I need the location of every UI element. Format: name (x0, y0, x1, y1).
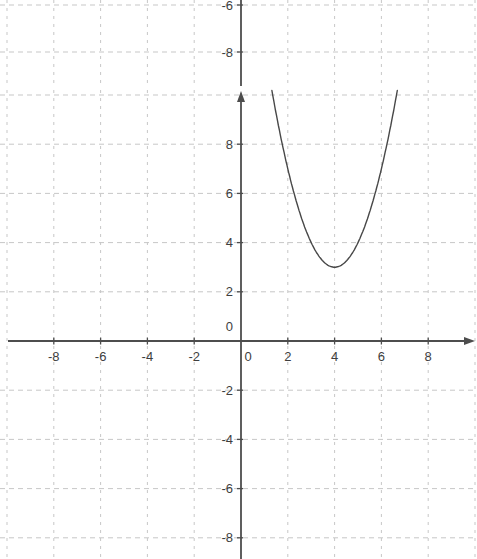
y-tick-label: -6 (221, 481, 233, 496)
graph-canvas: -6-8-8-6-4-20246886420-2-4-6-8 (0, 0, 477, 559)
x-axis-arrowhead (464, 337, 475, 345)
y-tick-label: 6 (226, 186, 233, 201)
y-tick-label: 8 (226, 137, 233, 152)
y-tick-label: -4 (221, 432, 233, 447)
x-tick-label: -8 (48, 349, 60, 364)
y-tick-label: 4 (226, 235, 233, 250)
strip-y-tick-label: -6 (221, 0, 233, 13)
x-tick-label: 0 (244, 349, 251, 364)
x-tick-label: -6 (95, 349, 107, 364)
x-tick-label: -4 (142, 349, 154, 364)
x-tick-label: 4 (331, 349, 338, 364)
coordinate-grid-figure: -6-8-8-6-4-20246886420-2-4-6-8 (0, 0, 477, 559)
y-tick-label-zero: 0 (226, 319, 233, 334)
y-axis-arrowhead (237, 91, 245, 102)
y-tick-label: -8 (221, 530, 233, 545)
x-tick-label: -2 (188, 349, 200, 364)
y-tick-label: 2 (226, 284, 233, 299)
x-tick-label: 2 (284, 349, 291, 364)
x-tick-label: 8 (425, 349, 432, 364)
y-tick-label: -2 (221, 383, 233, 398)
worksheet-page: -6-8-8-6-4-20246886420-2-4-6-8 (0, 0, 477, 559)
x-tick-label: 6 (378, 349, 385, 364)
strip-y-tick-label: -8 (221, 45, 233, 60)
